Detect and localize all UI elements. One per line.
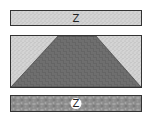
top-layer: Z [11,11,142,26]
middle-layer [11,36,142,88]
bottom-layer: Z [11,96,142,112]
cross-section-diagram: Z Z [0,0,150,121]
bottom-layer-label: Z [73,98,80,109]
top-layer-label: Z [73,13,80,24]
